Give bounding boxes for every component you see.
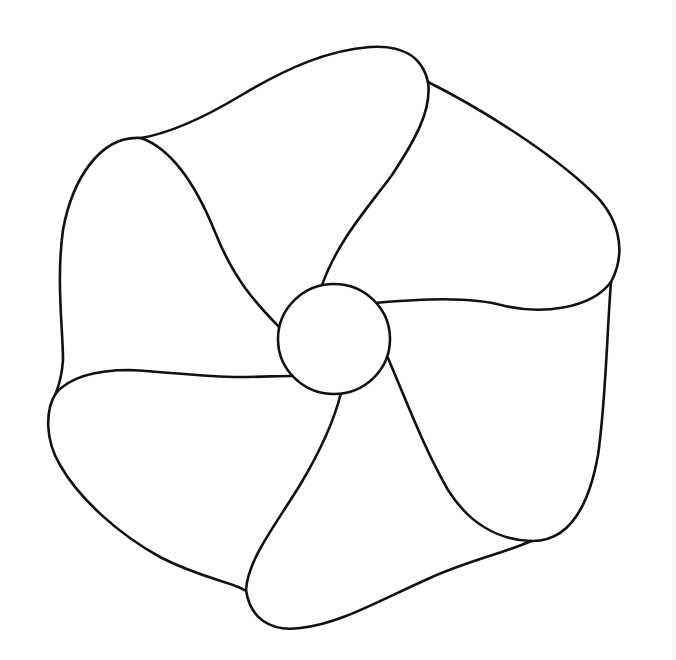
blade-upper-left (56, 138, 279, 393)
blade-bottom (246, 393, 531, 629)
scan-edge-artifact (672, 0, 676, 660)
blade-top (141, 47, 429, 285)
pinwheel-drawing (0, 0, 676, 660)
blade-lower-right (388, 282, 611, 541)
blade-upper-right (375, 82, 619, 310)
pinwheel-svg (0, 0, 676, 660)
hub-circle (278, 284, 390, 394)
